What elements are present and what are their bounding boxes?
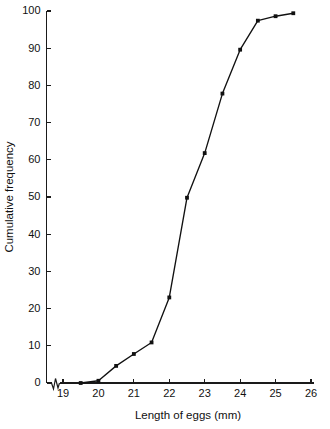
y-tick-label: 60 bbox=[28, 153, 40, 165]
y-tick-label: 30 bbox=[28, 265, 40, 277]
data-point-marker bbox=[79, 381, 83, 385]
data-point-marker bbox=[238, 48, 242, 52]
data-point-marker bbox=[203, 151, 207, 155]
y-axis-title: Cumulative frequency bbox=[3, 141, 15, 252]
x-tick-label: 21 bbox=[128, 387, 140, 399]
x-tick-label: 22 bbox=[163, 387, 175, 399]
data-point-marker bbox=[150, 341, 154, 345]
y-tick-label: 20 bbox=[28, 302, 40, 314]
data-point-marker bbox=[97, 379, 101, 383]
y-tick-label: 70 bbox=[28, 116, 40, 128]
data-series bbox=[79, 11, 295, 385]
x-tick-label: 26 bbox=[305, 387, 317, 399]
plot-area: 01020304050607080901001920212223242526 L… bbox=[0, 0, 330, 429]
y-axis bbox=[47, 11, 52, 384]
data-point-marker bbox=[114, 364, 118, 368]
y-tick-label: 0 bbox=[34, 376, 40, 388]
y-tick-label: 90 bbox=[28, 42, 40, 54]
data-point-marker bbox=[274, 14, 278, 18]
y-tick-label: 100 bbox=[22, 4, 40, 16]
x-tick-label: 19 bbox=[57, 387, 69, 399]
data-point-marker bbox=[291, 11, 295, 15]
cumulative-frequency-chart: 01020304050607080901001920212223242526 L… bbox=[0, 0, 330, 429]
data-point-marker bbox=[132, 352, 136, 356]
x-tick-label: 24 bbox=[234, 387, 246, 399]
data-point-marker bbox=[221, 92, 225, 96]
data-point-marker bbox=[167, 296, 171, 300]
x-axis-title: Length of eggs (mm) bbox=[135, 409, 241, 421]
y-tick-label: 40 bbox=[28, 228, 40, 240]
x-tick-label: 20 bbox=[92, 387, 104, 399]
x-tick-label: 23 bbox=[199, 387, 211, 399]
data-point-marker bbox=[256, 19, 260, 23]
y-tick-label: 80 bbox=[28, 79, 40, 91]
axis-labels: 01020304050607080901001920212223242526 bbox=[22, 4, 317, 399]
x-tick-label: 25 bbox=[269, 387, 281, 399]
y-tick-label: 50 bbox=[28, 190, 40, 202]
data-point-marker bbox=[185, 196, 189, 200]
y-tick-label: 10 bbox=[28, 339, 40, 351]
